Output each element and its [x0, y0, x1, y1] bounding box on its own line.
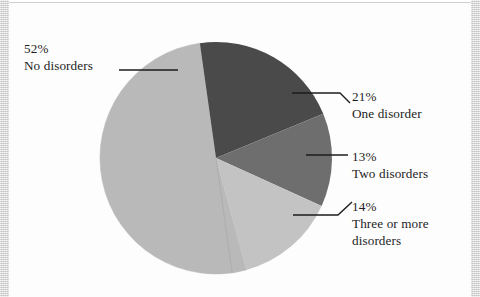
pie-label-two-disorders-name: Two disorders	[352, 165, 428, 182]
pie-label-no-disorders-name: No disorders	[24, 57, 93, 74]
pie-label-no-disorders: 52% No disorders	[24, 40, 93, 74]
pie-label-three-or-more-name: Three or more disorders	[352, 215, 456, 249]
pie-label-three-or-more: 14% Three or more disorders	[352, 198, 456, 249]
pie-label-one-disorder-name: One disorder	[352, 105, 422, 122]
pie-label-two-disorders: 13% Two disorders	[352, 148, 428, 182]
pie-label-three-or-more-percent: 14%	[352, 198, 456, 215]
pie-label-no-disorders-percent: 52%	[24, 40, 93, 57]
figure-page: 52% No disorders 21% One disorder 13% Tw…	[0, 0, 480, 297]
pie-label-one-disorder-percent: 21%	[352, 88, 422, 105]
pie-chart: 52% No disorders 21% One disorder 13% Tw…	[0, 0, 480, 297]
pie-label-one-disorder: 21% One disorder	[352, 88, 422, 122]
pie-label-two-disorders-percent: 13%	[352, 148, 428, 165]
